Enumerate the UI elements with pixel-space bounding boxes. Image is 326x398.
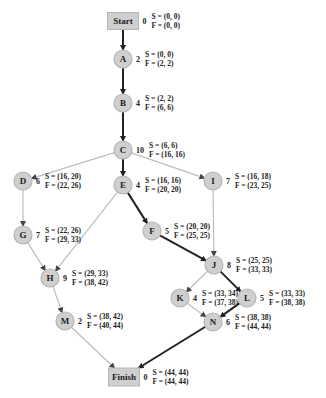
node-label: C bbox=[120, 145, 127, 155]
node-duration: 2 bbox=[136, 55, 140, 64]
node-finish-times: F = (22, 26) bbox=[45, 181, 82, 190]
node-g: G7S = (22, 26)F = (29, 33) bbox=[14, 226, 82, 244]
node-duration: 5 bbox=[165, 227, 169, 236]
node-finish-times: F = (38, 38) bbox=[269, 298, 306, 307]
node-start-times: S = (25, 25) bbox=[236, 256, 272, 265]
node-j: J8S = (25, 25)F = (33, 33) bbox=[205, 256, 273, 274]
node-finish-times: F = (6, 6) bbox=[145, 103, 174, 112]
node-label: A bbox=[120, 54, 127, 64]
node-label: J bbox=[212, 260, 217, 270]
node-label: Start bbox=[113, 16, 133, 26]
node-c: C10S = (6, 6)F = (16, 16) bbox=[114, 141, 186, 159]
node-finish-times: F = (33, 33) bbox=[236, 265, 273, 274]
node-a: A2S = (0, 0)F = (2, 2) bbox=[114, 50, 174, 68]
edge-i-j bbox=[213, 190, 214, 256]
node-start-times: S = (16, 20) bbox=[45, 172, 81, 181]
node-k: K4S = (33, 34)F = (37, 38) bbox=[171, 289, 239, 307]
node-finish-times: F = (29, 33) bbox=[45, 235, 82, 244]
node-start-times: S = (22, 26) bbox=[45, 226, 81, 235]
node-label: M bbox=[61, 316, 70, 326]
node-finish-times: F = (44, 44) bbox=[153, 377, 190, 386]
node-label: L bbox=[244, 293, 250, 303]
nodes-layer: Start0S = (0, 0)F = (0, 0)A2S = (0, 0)F … bbox=[14, 12, 306, 386]
node-duration: 10 bbox=[136, 146, 144, 155]
node-start-times: S = (0, 0) bbox=[145, 50, 174, 59]
edge-n-finish bbox=[139, 327, 206, 368]
node-label: E bbox=[120, 180, 126, 190]
node-label: G bbox=[19, 230, 26, 240]
node-duration: 0 bbox=[143, 17, 147, 26]
node-finish: Finish0S = (44, 44)F = (44, 44) bbox=[109, 368, 190, 386]
node-start-times: S = (38, 42) bbox=[87, 312, 123, 321]
node-label: Finish bbox=[112, 372, 136, 382]
node-start: Start0S = (0, 0)F = (0, 0) bbox=[108, 12, 181, 30]
node-n: N6S = (38, 38)F = (44, 44) bbox=[204, 313, 272, 331]
node-label: B bbox=[120, 98, 126, 108]
edge-g-h bbox=[28, 243, 45, 271]
node-start-times: S = (44, 44) bbox=[153, 368, 189, 377]
node-start-times: S = (38, 38) bbox=[235, 313, 271, 322]
node-duration: 2 bbox=[78, 317, 82, 326]
node-finish-times: F = (16, 16) bbox=[149, 150, 186, 159]
node-e: E4S = (16, 16)F = (20, 20) bbox=[114, 176, 182, 194]
node-b: B4S = (2, 2)F = (6, 6) bbox=[114, 94, 174, 112]
node-start-times: S = (33, 34) bbox=[202, 289, 238, 298]
node-m: M2S = (38, 42)F = (40, 44) bbox=[56, 312, 124, 330]
node-label: I bbox=[211, 176, 215, 186]
node-label: K bbox=[176, 293, 183, 303]
node-finish-times: F = (44, 44) bbox=[235, 322, 272, 331]
node-label: D bbox=[20, 176, 27, 186]
node-start-times: S = (16, 18) bbox=[235, 172, 271, 181]
node-finish-times: F = (40, 44) bbox=[87, 321, 124, 330]
node-start-times: S = (0, 0) bbox=[152, 12, 181, 21]
node-finish-times: F = (2, 2) bbox=[145, 59, 174, 68]
node-f: F5S = (20, 20)F = (25, 25) bbox=[143, 222, 211, 240]
node-start-times: S = (16, 16) bbox=[145, 176, 181, 185]
node-duration: 7 bbox=[226, 177, 230, 186]
node-duration: 5 bbox=[260, 294, 264, 303]
node-duration: 8 bbox=[227, 261, 231, 270]
node-duration: 0 bbox=[144, 373, 148, 382]
node-finish-times: F = (38, 42) bbox=[72, 278, 109, 287]
node-start-times: S = (2, 2) bbox=[145, 94, 174, 103]
node-start-times: S = (29, 33) bbox=[72, 269, 108, 278]
node-l: L5S = (33, 33)F = (38, 38) bbox=[238, 289, 306, 307]
node-duration: 6 bbox=[226, 318, 230, 327]
node-duration: 4 bbox=[136, 181, 140, 190]
node-start-times: S = (33, 33) bbox=[269, 289, 305, 298]
node-duration: 4 bbox=[193, 294, 197, 303]
node-duration: 9 bbox=[63, 274, 67, 283]
node-finish-times: F = (23, 25) bbox=[235, 181, 272, 190]
node-start-times: S = (6, 6) bbox=[149, 141, 178, 150]
node-label: H bbox=[46, 273, 53, 283]
edge-m-finish bbox=[72, 327, 115, 368]
node-h: H9S = (29, 33)F = (38, 42) bbox=[41, 269, 109, 287]
edge-e-f bbox=[128, 193, 147, 224]
node-label: F bbox=[149, 226, 155, 236]
node-finish-times: F = (25, 25) bbox=[174, 231, 211, 240]
node-d: D6S = (16, 20)F = (22, 26) bbox=[14, 172, 82, 190]
network-diagram: Start0S = (0, 0)F = (0, 0)A2S = (0, 0)F … bbox=[0, 0, 326, 398]
node-duration: 7 bbox=[36, 231, 40, 240]
node-i: I7S = (16, 18)F = (23, 25) bbox=[204, 172, 272, 190]
node-finish-times: F = (0, 0) bbox=[152, 21, 181, 30]
edge-h-m bbox=[53, 286, 62, 312]
node-duration: 6 bbox=[36, 177, 40, 186]
node-start-times: S = (20, 20) bbox=[174, 222, 210, 231]
node-duration: 4 bbox=[136, 99, 140, 108]
node-finish-times: F = (37, 38) bbox=[202, 298, 239, 307]
node-label: N bbox=[210, 317, 217, 327]
node-finish-times: F = (20, 20) bbox=[145, 185, 182, 194]
